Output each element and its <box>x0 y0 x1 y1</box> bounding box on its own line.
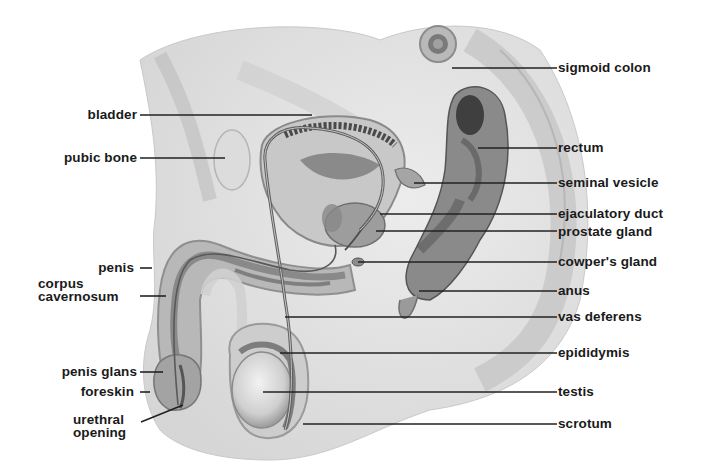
label-bladder: bladder <box>88 108 137 121</box>
label-foreskin: foreskin <box>81 385 134 398</box>
label-cowpers-gland-text: cowper's gland <box>558 254 657 269</box>
label-epididymis-text: epididymis <box>558 345 630 360</box>
label-penis-glans: penis glans <box>62 365 137 378</box>
label-bladder-text: bladder <box>88 107 137 122</box>
label-prostate-gland-text: prostate gland <box>558 224 652 239</box>
label-testis: testis <box>558 385 594 398</box>
label-anus: anus <box>558 284 590 297</box>
label-rectum: rectum <box>558 141 604 154</box>
label-ejaculatory-duct-text: ejaculatory duct <box>558 206 663 221</box>
label-prostate-gland: prostate gland <box>558 225 652 238</box>
label-urethral-opening: urethral opening <box>73 413 126 439</box>
label-vas-deferens: vas deferens <box>558 310 642 323</box>
label-sigmoid-colon-text: sigmoid colon <box>558 60 651 75</box>
label-anus-text: anus <box>558 283 590 298</box>
label-vas-deferens-text: vas deferens <box>558 309 642 324</box>
label-corpus-cavernosum: corpus cavernosum <box>38 277 119 303</box>
label-testis-text: testis <box>558 384 594 399</box>
sigmoid-colon-shape <box>420 26 456 62</box>
label-seminal-vesicle-text: seminal vesicle <box>558 175 659 190</box>
anatomy-diagram: bladder pubic bone penis corpus cavernos… <box>0 0 718 471</box>
pubic-bone-shape <box>214 130 250 190</box>
label-rectum-text: rectum <box>558 140 604 155</box>
label-opening-line2: opening <box>73 426 126 439</box>
label-pubic-bone: pubic bone <box>64 151 137 164</box>
label-penis: penis <box>98 261 134 274</box>
label-epididymis: epididymis <box>558 346 630 359</box>
label-penis-text: penis <box>98 260 134 275</box>
label-pubic-bone-text: pubic bone <box>64 150 137 165</box>
testis-shape <box>232 352 292 428</box>
label-ejaculatory-duct: ejaculatory duct <box>558 207 663 220</box>
label-penis-glans-text: penis glans <box>62 364 137 379</box>
label-scrotum: scrotum <box>558 417 612 430</box>
label-foreskin-text: foreskin <box>81 384 134 399</box>
label-cavernosum-line2: cavernosum <box>38 290 119 303</box>
label-cowpers-gland: cowper's gland <box>558 255 657 268</box>
label-scrotum-text: scrotum <box>558 416 612 431</box>
label-sigmoid-colon: sigmoid colon <box>558 61 651 74</box>
label-seminal-vesicle: seminal vesicle <box>558 176 659 189</box>
